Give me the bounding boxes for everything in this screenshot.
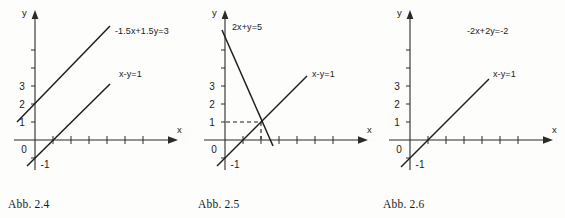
- figure-caption-3: Abb. 2.6: [383, 198, 425, 210]
- y-tick-label-minus-1: -1: [416, 159, 425, 170]
- figure-panel-3: y x 3 2 1 0 -1 -2x+2y=-2 x-y=1 Abb. 2.6: [375, 0, 563, 218]
- y-tick-label-minus-1: -1: [231, 159, 240, 170]
- y-tick-label-minus-1: -1: [41, 159, 50, 170]
- y-axis-arrow-icon: [222, 10, 229, 19]
- equation-label-2: x-y=1: [119, 69, 142, 79]
- equation-label-1: -1.5x+1.5y=3: [115, 26, 169, 36]
- plot-abb-2-5: y x 3 2 1 0 -1 2x+y=5 x-y=1: [190, 0, 378, 182]
- graph-line-equation-1: [222, 30, 273, 146]
- x-axis-label: x: [552, 124, 557, 135]
- y-tick-label-2: 2: [394, 99, 400, 110]
- y-tick-label-0: 0: [211, 144, 217, 155]
- y-axis-arrow-icon: [32, 10, 39, 19]
- x-axis-arrow-icon: [358, 136, 368, 143]
- y-tick-label-2: 2: [19, 99, 25, 110]
- y-tick-label-3: 3: [394, 81, 400, 92]
- plot-abb-2-4: y x 3 2 1 0 -1 -1.5x+1.5y=3 x-y=1: [0, 0, 188, 182]
- figure-strip: y x 3 2 1 0 -1 -1.5x+1.5y=3 x-y=1 Abb. 2…: [0, 0, 565, 218]
- equation-label-2: x-y=1: [493, 69, 516, 79]
- graph-line-equation-2: [217, 76, 307, 166]
- equation-label-1: 2x+y=5: [232, 22, 262, 32]
- x-axis-label: x: [367, 124, 372, 135]
- y-tick-label-0: 0: [21, 144, 27, 155]
- graph-line-equation-2: [27, 84, 110, 166]
- y-tick-label-0: 0: [396, 144, 402, 155]
- figure-panel-1: y x 3 2 1 0 -1 -1.5x+1.5y=3 x-y=1 Abb. 2…: [0, 0, 188, 218]
- graph-line-coincident: [401, 79, 489, 167]
- equation-label-1: -2x+2y=-2: [467, 26, 508, 36]
- y-axis-label: y: [397, 7, 402, 18]
- y-axis-label: y: [22, 7, 27, 18]
- y-tick-label-1: 1: [209, 117, 215, 128]
- equation-label-2: x-y=1: [312, 69, 335, 79]
- x-axis-label: x: [177, 124, 182, 135]
- figure-caption-2: Abb. 2.5: [198, 198, 240, 210]
- y-tick-label-3: 3: [209, 81, 215, 92]
- x-axis-arrow-icon: [168, 136, 178, 143]
- y-tick-label-3: 3: [19, 81, 25, 92]
- x-axis-arrow-icon: [543, 136, 553, 143]
- y-axis-arrow-icon: [407, 10, 414, 19]
- y-axis-label: y: [212, 7, 217, 18]
- figure-panel-2: y x 3 2 1 0 -1 2x+y=5 x-y=1 Abb. 2.5: [190, 0, 378, 218]
- y-tick-label-1: 1: [394, 117, 400, 128]
- graph-line-equation-1: [17, 26, 110, 122]
- figure-caption-1: Abb. 2.4: [8, 198, 50, 210]
- y-tick-label-2: 2: [209, 99, 215, 110]
- plot-abb-2-6: y x 3 2 1 0 -1 -2x+2y=-2 x-y=1: [375, 0, 563, 182]
